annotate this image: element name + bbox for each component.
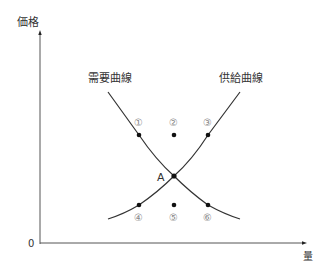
- equilibrium-label: A: [157, 171, 165, 184]
- point-6: [206, 203, 211, 208]
- point-4-label: ④: [134, 212, 143, 223]
- point-3: [206, 133, 211, 138]
- point-5-label: ⑤: [169, 212, 178, 223]
- x-axis-label: 量: [303, 251, 313, 262]
- supply-curve-label: 供給曲線: [219, 71, 263, 85]
- point-6-label: ⑥: [203, 212, 212, 223]
- demand-curve: [108, 92, 240, 219]
- x-axis-arrow-icon: [302, 241, 307, 244]
- y-axis-label: 価格: [17, 15, 39, 29]
- y-axis-arrow-icon: [38, 30, 41, 35]
- equilibrium-point: [171, 173, 176, 178]
- supply-curve: [108, 92, 240, 219]
- demand-curve-label: 需要曲線: [88, 71, 132, 85]
- point-5: [172, 203, 177, 208]
- supply-demand-diagram: 価格 0 量 需要曲線 供給曲線 A ① ② ③ ④ ⑤ ⑥: [0, 0, 332, 272]
- origin-label: 0: [28, 238, 34, 249]
- point-3-label: ③: [203, 117, 212, 128]
- point-2-label: ②: [169, 117, 178, 128]
- point-4: [137, 203, 142, 208]
- point-2: [172, 133, 177, 138]
- point-1-label: ①: [134, 117, 143, 128]
- point-1: [137, 133, 142, 138]
